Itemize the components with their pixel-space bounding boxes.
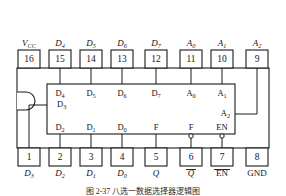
pin-14-signal: D5 [85,38,96,49]
pin-9-number: 9 [255,54,260,64]
pin-7-number: 7 [220,152,225,162]
pin-2-signal: D2 [54,168,65,179]
package-body [17,68,269,148]
pin-11-signal: A0 [186,38,197,49]
pin-12-number: 12 [151,54,161,64]
figure-caption-group: 图 2-37 八选一数据选择器逻辑图 [86,186,201,196]
pin-16[interactable]: 16 VCC [18,38,40,68]
pin-6-inversion-bubble-icon [189,134,193,138]
pin-8-signal: GND [247,168,267,178]
pin-11-number: 11 [186,54,195,64]
pin-14-number: 14 [86,54,96,64]
pin-16-number: 16 [24,54,34,64]
pin-8-number: 8 [255,152,260,162]
pin-10-number: 10 [217,54,227,64]
logic-label-f-inverted: F [189,122,194,132]
pin-1-number: 1 [27,152,32,162]
pin-9-signal: A2 [252,38,262,49]
logic-label-en: EN [216,122,227,132]
pin-3-number: 3 [89,152,94,162]
pin-10-signal: A1 [217,38,227,49]
pin-5-number: 5 [154,152,159,162]
pin-2-number: 2 [58,152,63,162]
pin-3-signal: D1 [85,168,96,179]
pin-13-signal: D6 [116,38,128,49]
pin-8[interactable]: 8 GND [246,148,268,178]
pin-1-signal: D3 [23,168,34,179]
pin-4-signal: D0 [116,168,128,179]
package-notch-icon [17,92,35,110]
pin-4-number: 4 [120,152,125,162]
figure-caption: 图 2-37 八选一数据选择器逻辑图 [86,186,201,196]
pin-5-signal: Q [153,168,160,178]
pin-7-inversion-bubble-icon [220,134,224,138]
pin-13-number: 13 [117,54,127,64]
ic-pinout-figure: 16 VCC 15 D4 14 D5 13 D6 [0,0,286,196]
pin-12-signal: D7 [150,38,162,49]
pin-15-signal: D4 [54,38,65,49]
pin-15-number: 15 [55,54,65,64]
logic-label-f: F [154,122,159,132]
pin-16-signal: VCC [22,38,37,49]
pin-6-number: 6 [189,152,194,162]
pinout-svg: 16 VCC 15 D4 14 D5 13 D6 [0,0,286,196]
package-outline [17,68,269,148]
